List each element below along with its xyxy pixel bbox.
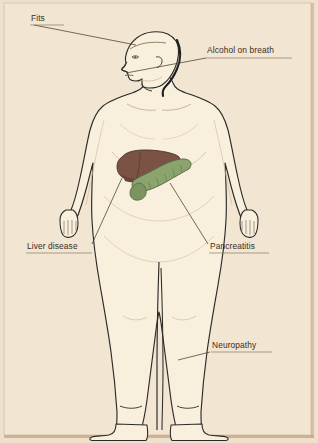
- frame-right-edge: [311, 3, 314, 438]
- body-diagram-svg: [0, 0, 318, 443]
- label-fits: Fits: [31, 14, 45, 22]
- frame-bottom-edge: [4, 435, 314, 438]
- label-neuropathy: Neuropathy: [212, 341, 256, 349]
- pupil: [134, 56, 136, 58]
- hand-left: [60, 210, 78, 237]
- label-liver-disease: Liver disease: [27, 242, 78, 250]
- hand-right: [240, 210, 258, 237]
- anatomical-figure-panel: Fits Alcohol on breath Liver disease Pan…: [0, 0, 318, 443]
- label-pancreatitis: Pancreatitis: [210, 242, 255, 250]
- label-alcohol-on-breath: Alcohol on breath: [207, 46, 274, 54]
